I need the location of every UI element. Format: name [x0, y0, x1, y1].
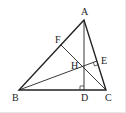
label-d: D [81, 92, 88, 103]
triangle-figure: A B C D E F H [0, 0, 126, 113]
frame-border-right [125, 0, 126, 113]
label-f: F [55, 34, 61, 45]
frame-border-bottom [0, 112, 126, 113]
geometry-diagram: A B C D E F H [0, 0, 126, 113]
label-b: B [12, 92, 19, 103]
altitude-be [19, 61, 97, 90]
label-e: E [101, 55, 107, 66]
label-h: H [71, 60, 78, 71]
triangle-abc [19, 20, 106, 90]
label-c: C [105, 92, 112, 103]
label-a: A [81, 6, 89, 17]
